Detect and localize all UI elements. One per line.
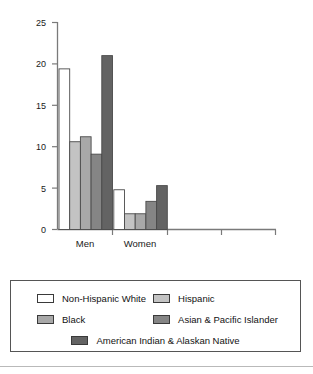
bar — [135, 214, 146, 230]
y-axis-ticks — [52, 23, 58, 230]
legend-swatch-icon — [37, 294, 54, 303]
legend-item-american-indian-alaskan-native: American Indian & Alaskan Native — [71, 335, 239, 346]
legend-item-asian-pacific-islander: Asian & Pacific Islander — [153, 314, 300, 325]
chart-legend: Non-Hispanic White Hispanic Black Asian … — [10, 280, 301, 352]
legend-label: American Indian & Alaskan Native — [96, 335, 239, 346]
page-divider — [0, 366, 313, 367]
bar-group-men — [59, 56, 113, 230]
legend-label: Non-Hispanic White — [62, 293, 146, 304]
bar — [80, 137, 91, 230]
legend-item-hispanic: Hispanic — [153, 293, 300, 304]
y-tick-label: 20 — [36, 59, 46, 69]
bar — [59, 69, 70, 230]
legend-swatch-icon — [71, 336, 88, 345]
x-axis-ticks — [113, 230, 276, 236]
y-tick-label: 10 — [36, 142, 46, 152]
legend-item-black: Black — [11, 314, 153, 325]
legend-swatch-icon — [153, 294, 170, 303]
bar — [91, 154, 102, 229]
bar — [146, 201, 157, 229]
y-tick-label: 0 — [41, 225, 46, 235]
bar-group-women — [114, 186, 168, 230]
x-category-label-women: Women — [124, 238, 157, 249]
legend-row: Non-Hispanic White Hispanic — [11, 288, 300, 309]
legend-label: Hispanic — [178, 293, 214, 304]
legend-row: American Indian & Alaskan Native — [11, 330, 300, 351]
y-tick-label: 5 — [41, 184, 46, 194]
bar — [157, 186, 168, 230]
legend-row: Black Asian & Pacific Islander — [11, 309, 300, 330]
legend-swatch-icon — [153, 315, 170, 324]
legend-label: Asian & Pacific Islander — [178, 314, 278, 325]
legend-label: Black — [62, 314, 85, 325]
legend-item-non-hispanic-white: Non-Hispanic White — [11, 293, 153, 304]
bar — [125, 214, 136, 230]
bar-chart-figure: 25 20 15 10 5 0 Men Women — [0, 0, 313, 258]
bar — [70, 142, 81, 230]
y-axis-tick-labels: 25 20 15 10 5 0 — [36, 18, 46, 235]
y-tick-label: 25 — [36, 18, 46, 28]
bar — [102, 56, 113, 230]
y-tick-label: 15 — [36, 101, 46, 111]
legend-swatch-icon — [37, 315, 54, 324]
chart-plot-area: 25 20 15 10 5 0 Men Women — [0, 0, 313, 258]
x-category-label-men: Men — [76, 238, 94, 249]
bar — [114, 190, 125, 230]
